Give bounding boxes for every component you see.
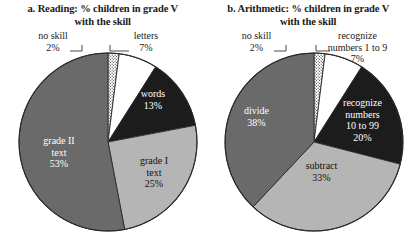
- panel-reading: a. Reading: % children in grade V with t…: [0, 0, 206, 234]
- two-pie-chart-figure: a. Reading: % children in grade V with t…: [0, 0, 411, 234]
- callout-no-skill-reading: no skill 2%: [22, 30, 84, 53]
- panel-arithmetic: b. Arithmetic: % children in grade V wit…: [206, 0, 411, 234]
- callout-recognize-numbers-1-to-9: recognize numbers 1 to 9 7%: [310, 30, 406, 65]
- callout-letters-reading: letters 7%: [118, 30, 174, 53]
- callout-no-skill-arithmetic: no skill 2%: [226, 30, 288, 53]
